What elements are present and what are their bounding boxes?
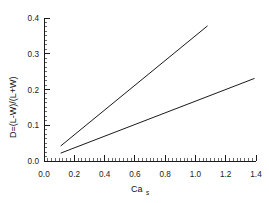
fit-line-filled-circles (61, 26, 208, 146)
y-axis-title: D=(L-W)/(L+W) (8, 77, 18, 139)
x-tick-label: 0.2 (69, 170, 81, 179)
y-tick-label: 0.2 (28, 86, 40, 95)
x-tick-label: 0.0 (38, 170, 50, 179)
x-axis-tick-labels: 0.00.20.40.60.81.01.21.4 (38, 170, 262, 179)
y-tick-label: 0.3 (28, 50, 40, 59)
fit-line-open-circles (61, 78, 255, 153)
x-tick-label: 0.4 (99, 170, 111, 179)
x-axis-title: Ca s (131, 184, 149, 196)
y-tick-label: 0.4 (28, 14, 40, 23)
x-tick-label: 1.2 (220, 170, 232, 179)
x-tick-label: 0.6 (129, 170, 141, 179)
x-tick-label: 1.4 (250, 170, 262, 179)
x-tick-label: 0.8 (159, 170, 171, 179)
y-axis-title-text: D=(L-W)/(L+W) (8, 77, 18, 139)
x-axis-title-subscript: s (146, 189, 149, 196)
y-axis-tick-labels: 0.00.10.20.30.4 (28, 14, 40, 166)
chart-figure: 0.00.10.20.30.4 0.00.20.40.60.81.01.21.4… (0, 0, 269, 203)
y-tick-label: 0.0 (28, 157, 40, 166)
regression-lines (61, 26, 255, 153)
y-axis-major-ticks (44, 18, 50, 161)
x-tick-label: 1.0 (190, 170, 202, 179)
x-axis-title-text: Ca (131, 184, 143, 194)
y-tick-label: 0.1 (28, 121, 40, 130)
scatter-plot: 0.00.10.20.30.4 0.00.20.40.60.81.01.21.4… (0, 0, 269, 203)
